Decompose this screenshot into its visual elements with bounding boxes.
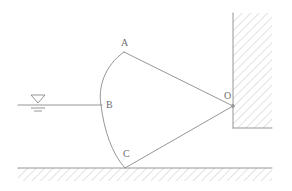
vertex-label-C: C [123,149,130,159]
line-A-to-O [124,52,233,106]
ground-hatching-fill [18,168,272,181]
ground-hatching-group [18,168,272,181]
wall-hatching-group [233,13,272,128]
line-C-to-O [125,106,233,168]
vertex-label-O: O [224,91,231,101]
vertex-label-B: B [106,100,113,110]
wall-hatching-fill [233,13,272,128]
figure-canvas: A B C O [0,0,292,191]
water-surface-level-marker [31,95,45,111]
vertex-label-A: A [121,38,128,48]
water-level-triangle-icon [31,95,45,103]
curved-gate-arc-ABC [100,52,125,168]
diagram-svg [0,0,292,191]
